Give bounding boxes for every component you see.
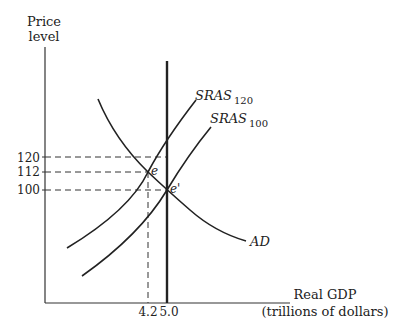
sras-120-label: SRAS120 [195, 88, 253, 106]
y-tick-120: 120 [17, 151, 40, 165]
y-tick-100: 100 [17, 183, 40, 197]
x-axis-label: Real GDP [293, 287, 356, 302]
x-tick-5-0: 5.0 [159, 305, 178, 319]
x-axis-sublabel: (trillions of dollars) [261, 304, 388, 319]
point-e-prime-label: e' [170, 182, 180, 196]
y-axis-label-line1: Price [27, 14, 61, 29]
y-axis-label-line2: level [28, 29, 59, 44]
point-e-label: e [151, 164, 158, 178]
ad-label: AD [249, 234, 270, 249]
sras-100-label: SRAS100 [210, 111, 268, 129]
x-tick-4-2: 4.2 [138, 305, 157, 319]
sras-100-curve [82, 127, 211, 276]
as-ad-diagram: Price level Real GDP (trillions of dolla… [0, 0, 396, 334]
y-tick-112: 112 [17, 165, 40, 179]
dashed-guides [45, 157, 167, 303]
